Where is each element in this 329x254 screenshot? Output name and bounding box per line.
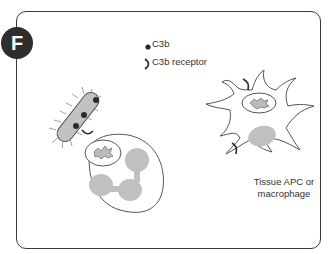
neutrophil [85,134,163,212]
c3b-receptor-icon [145,59,149,69]
apc-label: Tissue APC or macrophage [244,176,324,200]
c3b-receptor [82,130,93,134]
legend-c3b-label: C3b [152,38,169,49]
bacterium [49,87,102,148]
legend-receptor-label: C3b receptor [152,56,207,67]
c3b-dot [73,123,79,129]
apc-label-line1: Tissue APC or [244,176,324,188]
apc-macrophage [206,70,314,154]
apc-label-line2: macrophage [244,188,324,200]
c3b-dot [93,97,99,103]
c3b-dot [81,112,87,118]
c3b-receptor [243,79,248,90]
panel-badge: F [1,27,33,59]
c3b-dot-icon [145,44,150,49]
